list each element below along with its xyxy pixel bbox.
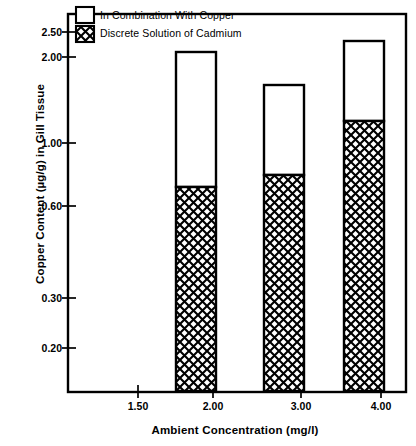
- bar-group-400[interactable]: [344, 41, 384, 391]
- bar-hatched-segment-400[interactable]: [344, 121, 384, 391]
- bar-group-300[interactable]: [264, 85, 304, 391]
- bar-hatched-segment-200[interactable]: [176, 187, 216, 391]
- legend: [76, 7, 94, 42]
- bar-hatched-segment-300[interactable]: [264, 175, 304, 391]
- chart-canvas: [0, 0, 416, 446]
- bar-open-segment-200[interactable]: [176, 52, 216, 187]
- chart-figure: Copper Content (µg/g) in Gill Tissue Amb…: [0, 0, 416, 446]
- bar-group-200[interactable]: [176, 52, 216, 391]
- bar-open-segment-300[interactable]: [264, 85, 304, 175]
- crosshatch-square-swatch: [76, 26, 94, 42]
- open-square-swatch: [76, 7, 94, 23]
- bar-open-segment-400[interactable]: [344, 41, 384, 121]
